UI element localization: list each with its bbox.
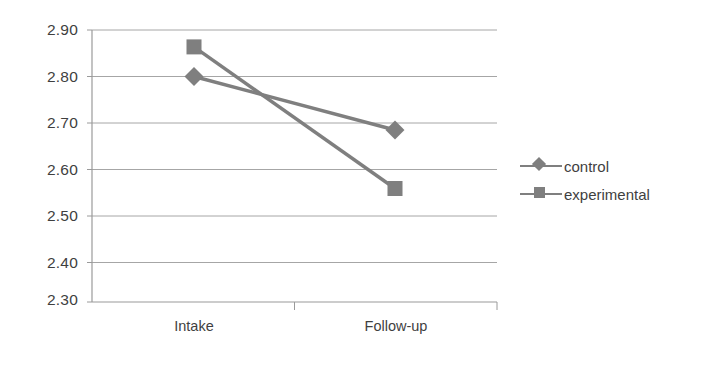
x-tick-label: Follow-up bbox=[365, 319, 428, 334]
legend-item-experimental: experimental bbox=[520, 180, 695, 208]
diamond-marker-icon bbox=[520, 159, 562, 173]
legend-label: experimental bbox=[562, 186, 650, 203]
square-marker-icon bbox=[520, 187, 562, 201]
chart-legend: control experimental bbox=[520, 152, 695, 208]
line-chart: 2.90 2.80 2.70 2.60 2.50 2.40 2.30 bbox=[0, 0, 701, 369]
legend-label: control bbox=[562, 158, 609, 175]
x-tick-label: Intake bbox=[174, 319, 214, 334]
legend-item-control: control bbox=[520, 152, 695, 180]
